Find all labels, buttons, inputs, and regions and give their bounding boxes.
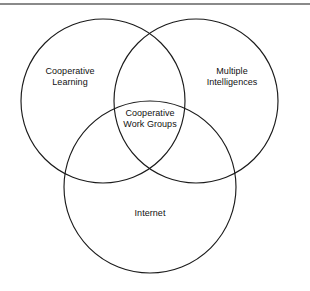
- venn-circles-group: [0, 0, 310, 291]
- venn-circle-multiple-intelligences: [114, 19, 278, 183]
- venn-diagram-figure: Cooperative Learning Multiple Intelligen…: [0, 0, 310, 291]
- venn-circle-internet: [64, 101, 236, 273]
- venn-circle-cooperative-learning: [21, 19, 185, 183]
